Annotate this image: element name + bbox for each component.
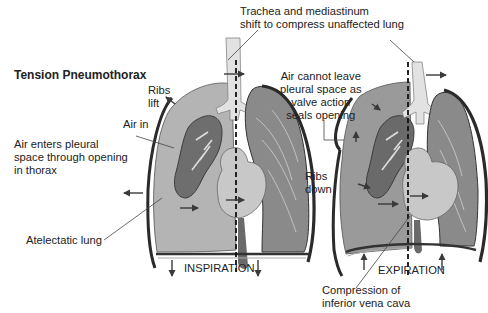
- label-expiration: EXPIRATION: [378, 264, 445, 277]
- label-trachea-shift: Trachea and mediastinum shift to compres…: [240, 5, 404, 31]
- label-inspiration: INSPIRATION: [184, 262, 255, 275]
- label-ribs-down: Ribs down: [305, 170, 332, 196]
- label-air-enters: Air enters pleural space through opening…: [14, 138, 128, 177]
- diagram-title: Tension Pneumothorax: [14, 68, 146, 82]
- label-air-in: Air in: [123, 118, 149, 131]
- label-ivc-compression: Compression of inferior vena cava: [322, 284, 410, 310]
- label-ribs-lift: Ribs lift: [148, 84, 170, 110]
- label-air-cannot-leave: Air cannot leave pleural space as valve …: [280, 70, 361, 122]
- diagram-canvas: Tension Pneumothorax Trachea and mediast…: [0, 0, 488, 313]
- label-atelectatic-lung: Atelectatic lung: [26, 234, 102, 247]
